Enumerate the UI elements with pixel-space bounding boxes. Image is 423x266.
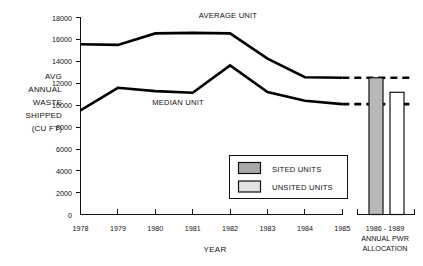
x-tick-label-1985: 1985	[334, 224, 350, 233]
y-tick-label-14000: 14000	[52, 57, 72, 66]
y-tick-label-6000: 6000	[56, 145, 72, 154]
bar-caption-line-2: ANNUAL PWR	[361, 234, 409, 243]
y-tick-label-18000: 18000	[52, 14, 72, 23]
bar-sited-units	[369, 78, 383, 215]
y-tick-label-8000: 8000	[56, 123, 72, 132]
x-axis-title: YEAR	[204, 245, 227, 254]
waste-shipped-line-chart: AVG ANNUAL WASTE SHIPPED (CU FT) 18000 1…	[0, 0, 423, 266]
x-tick-label-1978: 1978	[73, 224, 89, 233]
y-tick-label-12000: 12000	[52, 79, 72, 88]
y-tick-label-2000: 2000	[56, 189, 72, 198]
legend-swatch-unsited-units	[239, 181, 261, 192]
median-unit-label: MEDIAN UNIT	[152, 98, 204, 107]
x-tick-label-1979: 1979	[110, 224, 126, 233]
chart-legend: SITED UNITS UNSITED UNITS	[230, 156, 348, 199]
bar-group-caption: 1986 - 1989 ANNUAL PWR ALLOCATION	[361, 224, 409, 253]
chart-container: AVG ANNUAL WASTE SHIPPED (CU FT) 18000 1…	[0, 0, 423, 266]
legend-label-sited-units: SITED UNITS	[272, 165, 321, 174]
y-axis-title-line-4: SHIPPED	[25, 111, 62, 120]
y-tick-label-10000: 10000	[52, 101, 72, 110]
bar-unsited-units	[390, 92, 404, 214]
x-tick-label-1982: 1982	[222, 224, 238, 233]
x-tick-label-1984: 1984	[297, 224, 313, 233]
bar-caption-line-3: ALLOCATION	[363, 244, 408, 253]
x-tick-label-1980: 1980	[147, 224, 163, 233]
average-unit-label: AVERAGE UNIT	[199, 11, 258, 20]
legend-swatch-sited-units	[239, 163, 261, 174]
x-tick-label-1983: 1983	[260, 224, 276, 233]
x-tick-label-1981: 1981	[185, 224, 201, 233]
y-tick-label-16000: 16000	[52, 35, 72, 44]
y-tick-label-4000: 4000	[56, 167, 72, 176]
bar-caption-line-1: 1986 - 1989	[366, 224, 404, 233]
legend-label-unsited-units: UNSITED UNITS	[272, 183, 333, 192]
y-tick-label-0: 0	[68, 211, 72, 220]
